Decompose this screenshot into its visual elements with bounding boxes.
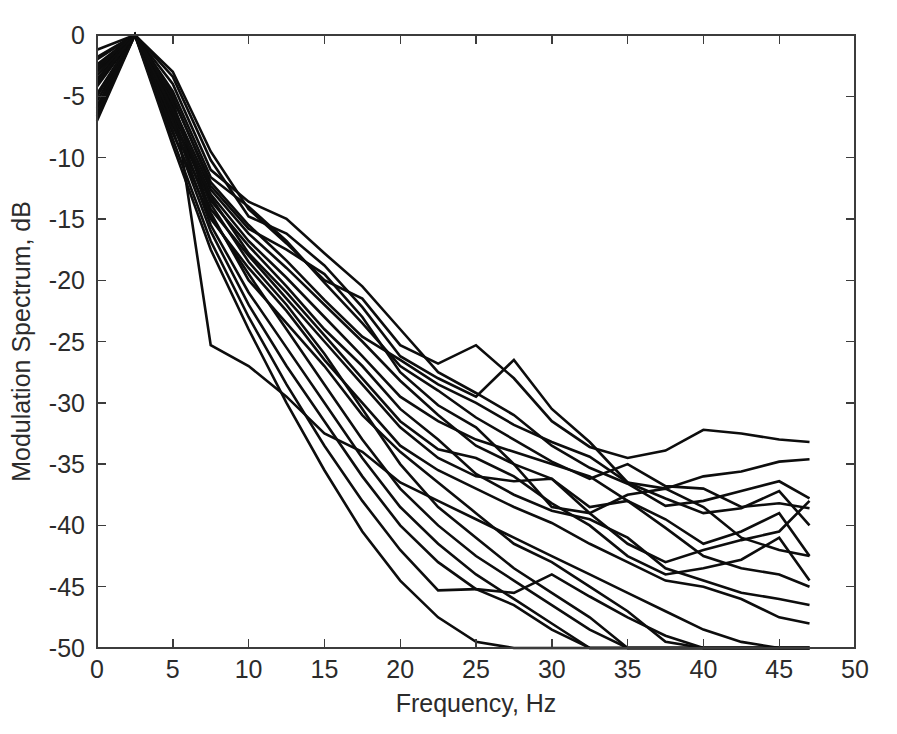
y-tick-label: -15 bbox=[49, 205, 85, 233]
y-tick-label: -35 bbox=[49, 450, 85, 478]
plot-canvas: 051015202530354045500-5-10-15-20-25-30-3… bbox=[0, 0, 897, 734]
x-axis-title: Frequency, Hz bbox=[396, 689, 557, 717]
x-tick-label: 45 bbox=[765, 655, 793, 683]
series-line bbox=[97, 35, 810, 506]
x-tick-label: 30 bbox=[538, 655, 566, 683]
x-tick-label: 25 bbox=[462, 655, 490, 683]
series-line bbox=[97, 35, 810, 489]
y-tick-label: -45 bbox=[49, 573, 85, 601]
series-line bbox=[97, 35, 810, 623]
series-line bbox=[97, 35, 810, 587]
x-tick-label: 5 bbox=[166, 655, 180, 683]
x-tick-label: 35 bbox=[614, 655, 642, 683]
x-tick-label: 15 bbox=[310, 655, 338, 683]
series-line bbox=[97, 35, 810, 458]
x-tick-label: 40 bbox=[689, 655, 717, 683]
series-group bbox=[97, 35, 810, 648]
axis-labels-group: 051015202530354045500-5-10-15-20-25-30-3… bbox=[7, 21, 869, 717]
y-tick-label: -25 bbox=[49, 328, 85, 356]
x-tick-label: 0 bbox=[90, 655, 104, 683]
y-tick-label: -20 bbox=[49, 266, 85, 294]
x-tick-label: 50 bbox=[841, 655, 869, 683]
x-tick-label: 20 bbox=[386, 655, 414, 683]
y-tick-label: -30 bbox=[49, 389, 85, 417]
y-tick-label: -50 bbox=[49, 634, 85, 662]
y-tick-label: 0 bbox=[71, 21, 85, 49]
series-line bbox=[97, 35, 810, 508]
y-tick-label: -5 bbox=[63, 82, 85, 110]
modulation-spectrum-figure: 051015202530354045500-5-10-15-20-25-30-3… bbox=[0, 0, 897, 734]
x-tick-label: 10 bbox=[235, 655, 263, 683]
y-axis-title: Modulation Spectrum, dB bbox=[7, 201, 35, 482]
y-tick-label: -10 bbox=[49, 144, 85, 172]
y-tick-label: -40 bbox=[49, 511, 85, 539]
